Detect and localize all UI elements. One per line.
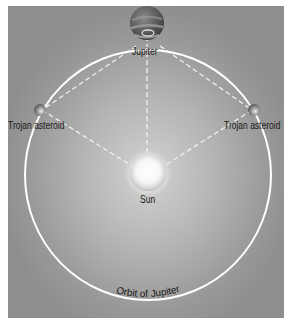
- jupiter-planet: [130, 6, 164, 40]
- left-asteroid-sun-line: [42, 110, 132, 166]
- orbit-label: Orbit of Jupiter: [115, 283, 181, 299]
- jupiter-right-asteroid-line: [160, 46, 252, 110]
- trojan-asteroid-left: [34, 104, 46, 116]
- diagram-panel: Orbit of Jupiter Jupiter Trojan asteroid…: [8, 6, 284, 318]
- sun-label: Sun: [140, 194, 155, 205]
- jupiter-left-asteroid-line: [42, 46, 136, 110]
- right-asteroid-sun-line: [164, 110, 252, 166]
- trojan-asteroid-right-label: Trojan asteroid: [224, 120, 280, 131]
- jupiter-label: Jupiter: [132, 46, 158, 57]
- trojan-asteroid-left-label: Trojan asteroid: [8, 120, 64, 131]
- trojan-asteroid-right: [248, 104, 260, 116]
- sun: [130, 155, 166, 191]
